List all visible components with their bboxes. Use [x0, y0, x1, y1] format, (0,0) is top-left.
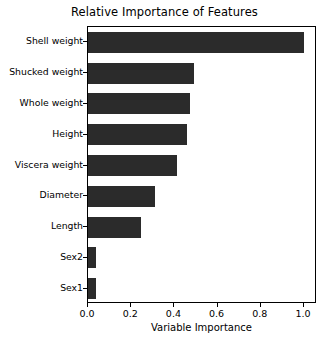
bar-series — [88, 27, 315, 302]
x-tick-mark — [173, 303, 174, 307]
x-tick-label: 0.4 — [153, 308, 193, 319]
x-tick-mark — [217, 303, 218, 307]
bar — [88, 63, 194, 84]
y-tick-label: Shucked weight — [0, 67, 83, 77]
chart-figure: Relative Importance of Features Shell we… — [0, 0, 329, 342]
bar — [88, 124, 187, 145]
x-tick-label: 0.6 — [197, 308, 237, 319]
y-tick-label: Sex1 — [0, 283, 83, 293]
bar — [88, 278, 96, 299]
y-tick-label: Sex2 — [0, 252, 83, 262]
bar — [88, 93, 190, 114]
y-tick-label: Shell weight — [0, 36, 83, 46]
bar — [88, 186, 155, 207]
y-axis-labels: Shell weightShucked weightWhole weightHe… — [0, 26, 83, 303]
x-axis-label: Variable Importance — [87, 322, 316, 333]
x-tick-mark — [260, 303, 261, 307]
y-tick-label: Height — [0, 129, 83, 139]
x-tick-mark — [303, 303, 304, 307]
x-tick-label: 0.8 — [240, 308, 280, 319]
bar — [88, 32, 304, 53]
y-tick-label: Length — [0, 221, 83, 231]
bar — [88, 247, 96, 268]
x-tick-label: 0.2 — [110, 308, 150, 319]
bar — [88, 155, 177, 176]
plot-area — [87, 26, 316, 303]
x-tick-label: 1.0 — [283, 308, 323, 319]
x-tick-mark — [130, 303, 131, 307]
y-tick-label: Viscera weight — [0, 160, 83, 170]
y-tick-label: Whole weight — [0, 98, 83, 108]
chart-title: Relative Importance of Features — [0, 5, 329, 19]
x-tick-mark — [87, 303, 88, 307]
y-tick-label: Diameter — [0, 190, 83, 200]
bar — [88, 217, 141, 238]
x-tick-label: 0.0 — [67, 308, 107, 319]
